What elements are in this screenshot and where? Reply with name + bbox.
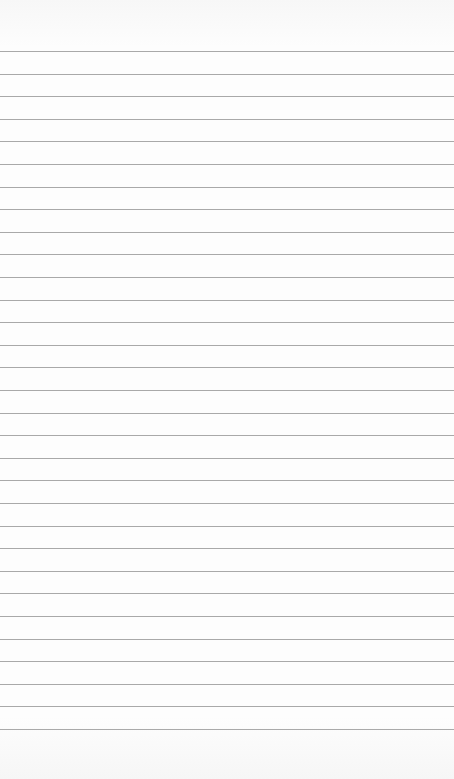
- ruled-line: [0, 503, 454, 504]
- ruled-line: [0, 639, 454, 640]
- ruled-line: [0, 277, 454, 278]
- ruled-line: [0, 254, 454, 255]
- ruled-line: [0, 300, 454, 301]
- ruled-line: [0, 209, 454, 210]
- ruled-line: [0, 548, 454, 549]
- ruled-line: [0, 661, 454, 662]
- ruled-line: [0, 164, 454, 165]
- ruled-line: [0, 480, 454, 481]
- ruled-line: [0, 96, 454, 97]
- ruled-line: [0, 706, 454, 707]
- ruled-line: [0, 74, 454, 75]
- ruled-line: [0, 345, 454, 346]
- ruled-line: [0, 684, 454, 685]
- ruled-line: [0, 458, 454, 459]
- ruled-line: [0, 593, 454, 594]
- ruled-line: [0, 119, 454, 120]
- ruled-line: [0, 413, 454, 414]
- ruled-line: [0, 187, 454, 188]
- ruled-line: [0, 51, 454, 52]
- ruled-line: [0, 571, 454, 572]
- lined-paper: [0, 0, 454, 779]
- ruled-line: [0, 141, 454, 142]
- ruled-line: [0, 232, 454, 233]
- ruled-line: [0, 367, 454, 368]
- ruled-line: [0, 616, 454, 617]
- ruled-line: [0, 435, 454, 436]
- ruled-line: [0, 526, 454, 527]
- ruled-line: [0, 390, 454, 391]
- ruled-line: [0, 729, 454, 730]
- ruled-line: [0, 322, 454, 323]
